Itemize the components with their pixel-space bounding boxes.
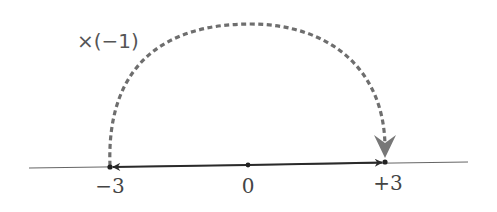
vector-to-plus-3 xyxy=(248,163,382,166)
point-zero xyxy=(246,163,251,168)
point-plus-3 xyxy=(382,159,387,164)
number-line-diagram: −3 0 +3 ×(−1) xyxy=(0,0,497,212)
operation-label: ×(−1) xyxy=(77,29,139,53)
tick-label-plus-3: +3 xyxy=(373,171,402,195)
reflection-arc xyxy=(110,24,385,166)
tick-label-minus-3: −3 xyxy=(95,174,124,198)
point-minus-3 xyxy=(107,164,112,169)
vector-to-minus-3 xyxy=(113,165,248,167)
tick-label-zero: 0 xyxy=(242,174,255,198)
